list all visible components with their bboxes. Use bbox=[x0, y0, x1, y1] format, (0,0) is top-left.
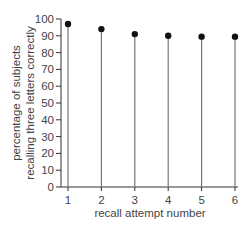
data-point-marker bbox=[165, 33, 171, 39]
data-points bbox=[65, 21, 238, 40]
data-point-marker bbox=[198, 33, 204, 39]
y-tick-label: 60 bbox=[41, 80, 54, 92]
y-tick-label: 80 bbox=[41, 47, 54, 59]
y-tick-label: 100 bbox=[35, 13, 54, 25]
y-tick-label: 0 bbox=[48, 181, 54, 193]
y-tick-label: 30 bbox=[41, 131, 54, 143]
data-point-marker bbox=[98, 26, 104, 32]
x-axis-label: recall attempt number bbox=[60, 207, 240, 219]
y-tick-label: 40 bbox=[41, 114, 54, 126]
y-tick-label: 20 bbox=[41, 147, 54, 159]
x-tick-label: 5 bbox=[198, 194, 204, 206]
x-tick-label: 2 bbox=[98, 194, 104, 206]
data-point-marker bbox=[132, 31, 138, 37]
y-tick-label: 50 bbox=[41, 97, 54, 109]
data-point-marker bbox=[65, 21, 71, 27]
x-tick-label: 6 bbox=[232, 194, 238, 206]
stem-chart: 0102030405060708090100 123456 bbox=[0, 0, 251, 229]
y-axis: 0102030405060708090100 bbox=[35, 13, 61, 193]
data-point-marker bbox=[232, 33, 238, 39]
y-tick-label: 70 bbox=[41, 63, 54, 75]
data-stems bbox=[68, 24, 235, 187]
x-tick-label: 3 bbox=[132, 194, 138, 206]
x-tick-label: 4 bbox=[165, 194, 172, 206]
x-tick-label: 1 bbox=[65, 194, 71, 206]
x-axis: 123456 bbox=[61, 187, 238, 206]
y-tick-label: 90 bbox=[41, 30, 54, 42]
y-tick-label: 10 bbox=[41, 164, 54, 176]
